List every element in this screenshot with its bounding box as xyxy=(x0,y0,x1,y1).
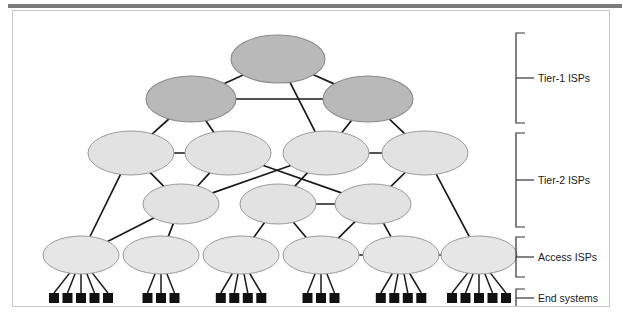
end-system-node[interactable] xyxy=(243,293,253,303)
access-isp-node[interactable] xyxy=(441,236,517,274)
legend-layer: Tier-1 ISPsTier-2 ISPsAccess ISPsEnd sys… xyxy=(516,33,598,306)
end-system-node[interactable] xyxy=(376,293,386,303)
isp-link xyxy=(391,173,405,187)
tier2-isp-node[interactable] xyxy=(382,131,468,175)
tier2-isp-node[interactable] xyxy=(88,131,174,175)
legend-label-access: Access ISPs xyxy=(538,251,597,263)
isp-hierarchy-diagram: Tier-1 ISPsTier-2 ISPsAccess ISPsEnd sys… xyxy=(13,11,609,306)
end-system-link xyxy=(381,274,393,294)
end-system-link xyxy=(404,274,408,293)
end-system-node[interactable] xyxy=(216,293,226,303)
isp-link xyxy=(90,174,121,236)
isp-link xyxy=(254,223,264,237)
end-system-node[interactable] xyxy=(303,293,313,303)
access-isp-node[interactable] xyxy=(283,236,359,274)
isp-link xyxy=(225,75,244,84)
end-system-node[interactable] xyxy=(170,293,180,303)
end-system-link xyxy=(250,274,262,294)
end-system-node[interactable] xyxy=(403,293,413,303)
end-system-link xyxy=(148,274,156,293)
end-system-link xyxy=(92,273,108,293)
tier2-isp-node[interactable] xyxy=(335,184,411,224)
end-system-node[interactable] xyxy=(330,293,340,303)
top-rule-divider xyxy=(8,4,622,8)
end-system-node[interactable] xyxy=(63,293,73,303)
end-system-node[interactable] xyxy=(143,293,153,303)
end-system-node[interactable] xyxy=(229,293,239,303)
end-system-link xyxy=(327,274,335,293)
end-system-link xyxy=(452,273,468,293)
isp-link xyxy=(168,224,173,237)
end-system-link xyxy=(410,274,422,294)
figure-frame: Tier-1 ISPsTier-2 ISPsAccess ISPsEnd sys… xyxy=(12,10,610,307)
isp-link xyxy=(206,121,214,133)
end-system-link xyxy=(308,274,316,293)
legend-label-end: End systems xyxy=(538,292,598,304)
end-system-node[interactable] xyxy=(103,293,113,303)
isp-link xyxy=(198,173,210,186)
end-system-link xyxy=(466,274,474,293)
legend-label-tier1: Tier-1 ISPs xyxy=(538,72,590,84)
page-top-bar xyxy=(0,0,622,8)
figure-page: Tier-1 ISPsTier-2 ISPsAccess ISPsEnd sys… xyxy=(0,0,622,317)
access-isp-node[interactable] xyxy=(203,236,279,274)
end-system-node[interactable] xyxy=(416,293,426,303)
access-isp-node[interactable] xyxy=(123,236,199,274)
isp-link xyxy=(152,119,169,134)
isp-link xyxy=(436,174,469,236)
end-system-node[interactable] xyxy=(90,293,100,303)
end-system-node[interactable] xyxy=(316,293,326,303)
access-isp-node[interactable] xyxy=(43,236,119,274)
isp-link xyxy=(150,173,163,187)
end-system-node[interactable] xyxy=(501,293,511,303)
end-system-link xyxy=(167,274,175,293)
end-system-link xyxy=(54,273,70,293)
isp-link xyxy=(389,119,404,133)
isp-link xyxy=(384,223,391,237)
end-system-link xyxy=(485,274,493,293)
end-system-node[interactable] xyxy=(256,293,266,303)
end-system-link xyxy=(87,274,95,293)
isp-link xyxy=(314,75,335,84)
end-system-link xyxy=(244,274,248,293)
end-system-node[interactable] xyxy=(461,293,471,303)
isp-link xyxy=(290,82,315,132)
end-system-link xyxy=(234,274,238,293)
access-isp-node[interactable] xyxy=(363,236,439,274)
end-system-link xyxy=(490,273,506,293)
tier1-isp-node[interactable] xyxy=(231,35,325,83)
end-system-link xyxy=(394,274,398,293)
isp-link xyxy=(342,120,352,132)
tier2-isp-node[interactable] xyxy=(283,131,369,175)
end-system-node[interactable] xyxy=(49,293,59,303)
end-system-link xyxy=(68,274,76,293)
end-system-node[interactable] xyxy=(76,293,86,303)
tier1-isp-node[interactable] xyxy=(323,76,413,122)
legend-label-tier2: Tier-2 ISPs xyxy=(538,174,590,186)
end-system-node[interactable] xyxy=(447,293,457,303)
tier2-isp-node[interactable] xyxy=(143,184,219,224)
tier2-isp-node[interactable] xyxy=(185,131,271,175)
end-system-node[interactable] xyxy=(389,293,399,303)
tier1-isp-node[interactable] xyxy=(146,76,236,122)
end-system-layer xyxy=(49,293,511,303)
isp-link xyxy=(338,222,355,239)
end-system-node[interactable] xyxy=(156,293,166,303)
end-system-node[interactable] xyxy=(474,293,484,303)
end-system-node[interactable] xyxy=(488,293,498,303)
isp-link xyxy=(293,222,306,237)
tier2-isp-node[interactable] xyxy=(240,184,316,224)
end-system-link xyxy=(221,274,233,294)
host-link-layer xyxy=(54,273,506,293)
